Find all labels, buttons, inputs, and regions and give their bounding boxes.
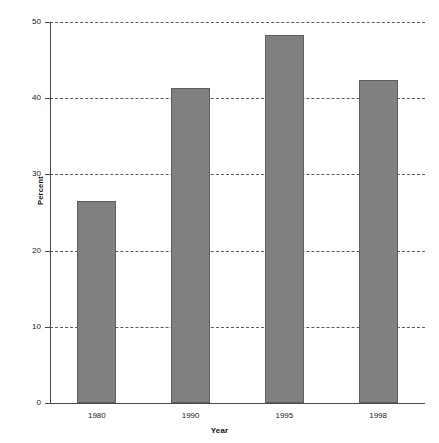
gridline-0 bbox=[50, 403, 425, 404]
bar-1990 bbox=[171, 88, 210, 403]
y-tick-label-50: 50 bbox=[0, 18, 41, 26]
plot-area bbox=[50, 22, 425, 403]
y-tick-label-10: 10 bbox=[0, 323, 41, 331]
x-tick-label-1995: 1995 bbox=[254, 411, 314, 420]
bar-1998 bbox=[359, 80, 398, 403]
y-axis-title: Percent bbox=[36, 161, 45, 221]
y-tick-label-0: 0 bbox=[0, 399, 41, 407]
bar-chart: 01020304050 1980199019951998 Year Percen… bbox=[0, 0, 439, 443]
x-tick-label-1980: 1980 bbox=[67, 411, 127, 420]
x-tick-label-1990: 1990 bbox=[161, 411, 221, 420]
bar-1995 bbox=[265, 35, 304, 403]
x-axis-title: Year bbox=[0, 426, 439, 435]
y-tick-label-40: 40 bbox=[0, 94, 41, 102]
gridline-50 bbox=[50, 22, 425, 23]
bar-1980 bbox=[77, 201, 116, 403]
x-tick-label-1998: 1998 bbox=[348, 411, 408, 420]
y-tick-label-20: 20 bbox=[0, 247, 41, 255]
